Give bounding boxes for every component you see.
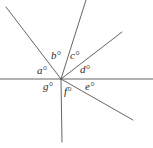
angle-label-c: c°	[70, 50, 79, 61]
angle-label-f: f°	[64, 86, 71, 97]
angle-label-e: e°	[85, 81, 94, 92]
ray-group	[0, 0, 153, 142]
angle-label-g: g°	[43, 81, 53, 92]
angle-label-a: a°	[37, 65, 47, 76]
ray-lower-right	[61, 79, 133, 120]
angle-label-d: d°	[80, 64, 90, 75]
angle-diagram-figure: a°b°c°d°e°f°g°	[0, 0, 153, 148]
angle-label-b: b°	[51, 50, 61, 61]
ray-upper-left	[6, 7, 61, 79]
ray-vertical-down	[61, 79, 62, 142]
angle-diagram-canvas	[0, 0, 153, 148]
